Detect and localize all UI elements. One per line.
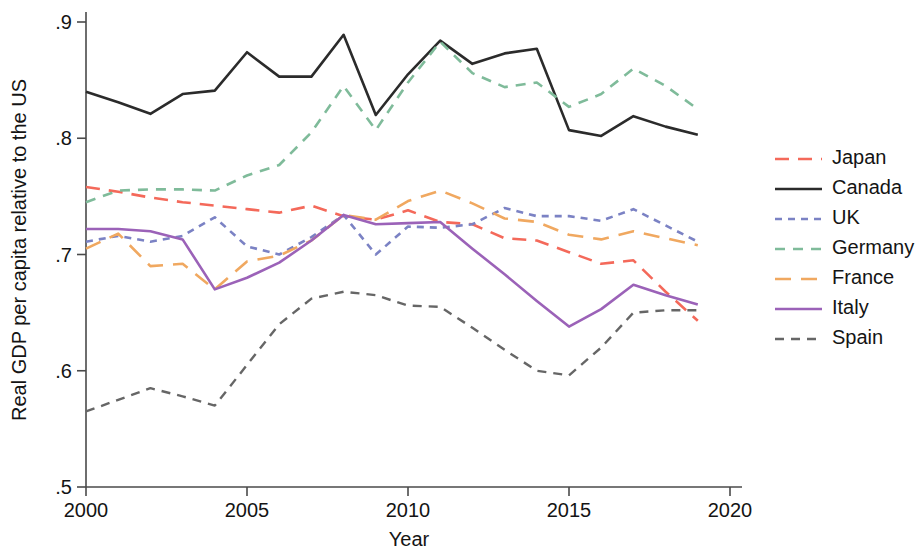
x-tick-label: 2010 bbox=[386, 499, 431, 521]
x-axis-title: Year bbox=[389, 528, 430, 550]
y-tick-label: .6 bbox=[55, 360, 72, 382]
series-line-japan bbox=[86, 187, 698, 321]
legend-label-canada: Canada bbox=[832, 176, 903, 198]
y-axis-title: Real GDP per capita relative to the US bbox=[8, 79, 30, 421]
x-tick-label: 2020 bbox=[708, 499, 753, 521]
y-tick-label: .9 bbox=[55, 11, 72, 33]
x-tick-label: 2000 bbox=[64, 499, 109, 521]
y-tick-label: .8 bbox=[55, 127, 72, 149]
legend-label-germany: Germany bbox=[832, 236, 914, 258]
chart-legend: JapanCanadaUKGermanyFranceItalySpain bbox=[775, 146, 914, 348]
chart-container: .9.8.7.6.5 20002005201020152020 Year Rea… bbox=[0, 0, 915, 554]
series-group bbox=[86, 35, 698, 412]
series-line-canada bbox=[86, 35, 698, 136]
legend-label-uk: UK bbox=[832, 206, 860, 228]
x-tick-group: 20002005201020152020 bbox=[64, 487, 753, 521]
x-axis: 20002005201020152020 bbox=[64, 487, 753, 521]
legend-label-japan: Japan bbox=[832, 146, 887, 168]
y-tick-group: .9.8.7.6.5 bbox=[55, 11, 86, 498]
series-line-france bbox=[86, 191, 698, 290]
legend-label-france: France bbox=[832, 266, 894, 288]
series-line-germany bbox=[86, 42, 698, 202]
legend-label-italy: Italy bbox=[832, 296, 869, 318]
series-line-spain bbox=[86, 292, 698, 412]
x-tick-label: 2005 bbox=[225, 499, 270, 521]
y-axis: .9.8.7.6.5 bbox=[55, 11, 86, 498]
x-tick-label: 2015 bbox=[547, 499, 592, 521]
line-chart: .9.8.7.6.5 20002005201020152020 Year Rea… bbox=[0, 0, 915, 554]
y-tick-label: .7 bbox=[55, 244, 72, 266]
series-line-italy bbox=[86, 215, 698, 327]
legend-label-spain: Spain bbox=[832, 326, 883, 348]
y-tick-label: .5 bbox=[55, 476, 72, 498]
